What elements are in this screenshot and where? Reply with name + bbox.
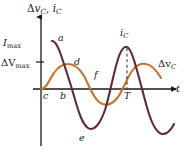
point-c-label: c: [43, 91, 48, 101]
period-marker-label: T: [124, 91, 130, 101]
y-axis-label-i-sub: C: [56, 7, 61, 16]
current-curve-label: iC: [120, 28, 128, 38]
voltage-curve-subscript: C: [171, 63, 176, 71]
voltage-curve-label: ΔvC: [158, 59, 176, 69]
imax-label: Imax: [3, 38, 21, 48]
point-e-label: e: [79, 133, 85, 143]
capacitor-phase-figure: ΔvC, iC t Imax ΔVmax a b c d e f T iC Δv…: [0, 0, 187, 155]
y-axis-label: ΔvC, iC: [27, 3, 61, 14]
vmax-subscript: max: [15, 62, 29, 70]
current-curve: [52, 41, 174, 134]
imax-subscript: max: [7, 42, 21, 50]
point-a-label: a: [58, 33, 64, 43]
point-f-label: f: [94, 70, 98, 80]
current-curve-subscript: C: [123, 32, 128, 40]
x-axis-label: t: [176, 84, 180, 94]
y-axis-label-comma: ,: [46, 2, 49, 14]
point-d-label: d: [74, 57, 80, 67]
voltage-curve-symbol-delta: Δv: [158, 58, 171, 69]
y-axis-label-v: v: [35, 2, 41, 14]
y-axis-label-delta: Δ: [27, 2, 35, 14]
vmax-symbol: ΔV: [1, 57, 15, 68]
vmax-label: ΔVmax: [1, 58, 29, 68]
y-axis-label-v-sub: C: [41, 7, 46, 16]
point-b-label: b: [60, 91, 66, 101]
voltage-curve: [41, 64, 161, 105]
